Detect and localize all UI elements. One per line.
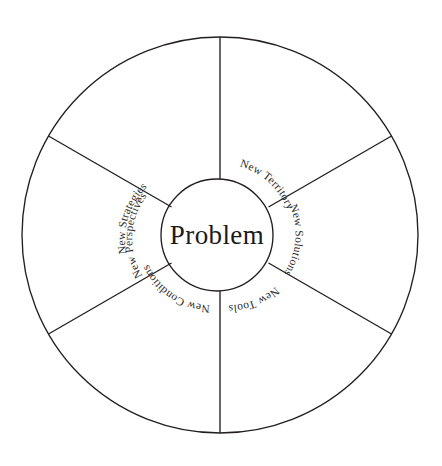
diagram-canvas: Problem New Strategies New Territory New… xyxy=(0,0,442,466)
radial-wheel-diagram: Problem New Strategies New Territory New… xyxy=(0,0,442,466)
center-label-problem: Problem xyxy=(170,220,264,250)
